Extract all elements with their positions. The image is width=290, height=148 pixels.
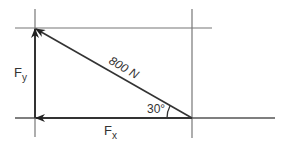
resultant-magnitude-label: 800 N <box>107 53 142 81</box>
fx-label: Fx <box>104 123 117 141</box>
force-diagram: Fy Fx 800 N 30° <box>0 0 290 148</box>
angle-arc <box>167 106 170 118</box>
fy-label: Fy <box>14 65 27 83</box>
angle-label: 30° <box>147 102 165 116</box>
resultant-vector-arrow <box>36 29 192 118</box>
